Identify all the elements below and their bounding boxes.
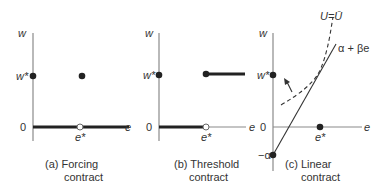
x-axis-label: e	[249, 121, 255, 133]
w-star-label: w*	[16, 70, 29, 82]
e-star-dot	[317, 124, 324, 131]
direction-arrow	[287, 82, 292, 92]
e-star-label: e*	[201, 131, 212, 143]
x-axis-label-a: e	[125, 121, 131, 133]
w-star-axis-dot	[30, 73, 37, 80]
y-axis-label: w	[259, 27, 268, 39]
e-star-open-circle	[203, 124, 209, 130]
caption-line2: contract	[301, 171, 340, 183]
arrow-head-icon	[284, 78, 290, 85]
zero-label: 0	[260, 121, 266, 133]
w-star-axis-dot	[270, 72, 277, 79]
e-star-label: e*	[75, 131, 86, 143]
y-axis-label: w	[145, 27, 154, 39]
y-axis-label: w	[18, 27, 27, 39]
e-star-label: e*	[315, 131, 326, 143]
caption-line1: (a) Forcing	[45, 158, 98, 170]
linear-line-label: α + βe	[338, 42, 369, 54]
panel-forcing-contract: w w* 0 e* (a) Forcing contract	[16, 27, 129, 183]
caption-line1: (c) Linear	[285, 158, 332, 170]
w-star-at-e-star-dot	[79, 73, 86, 80]
caption-line2: contract	[64, 171, 103, 183]
panel-threshold-contract: e w w* 0 e* e (b) Threshold contract	[125, 27, 255, 183]
zero-label: 0	[146, 121, 152, 133]
x-axis-label: e	[364, 121, 370, 133]
contracts-figure: w w* 0 e* (a) Forcing contract e w w* 0 …	[0, 0, 385, 194]
indifference-curve-label: U=Ū	[320, 10, 342, 22]
threshold-start-dot	[203, 71, 210, 78]
neg-alpha-label: −α	[258, 149, 271, 161]
zero-label: 0	[20, 121, 26, 133]
linear-wage-line	[273, 44, 336, 155]
w-star-axis-dot	[156, 72, 163, 79]
caption-line1: (b) Threshold	[174, 158, 239, 170]
caption-line2: contract	[189, 171, 228, 183]
e-star-open-circle	[77, 124, 83, 130]
w-star-label: w*	[257, 69, 270, 81]
indifference-curve-dashed	[281, 17, 333, 105]
panel-linear-contract: w w* 0 e* e −α α + βe U=Ū (c) Linear con…	[257, 10, 370, 183]
w-star-label: w*	[143, 69, 156, 81]
